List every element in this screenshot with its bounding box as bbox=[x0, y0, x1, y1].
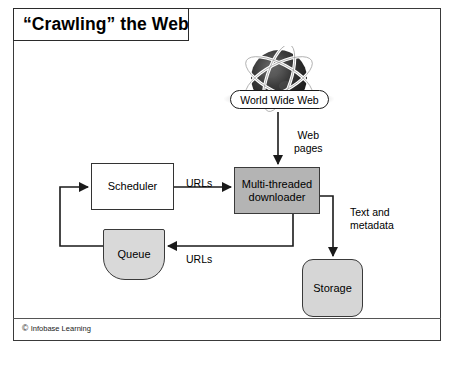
figure-root: “Crawling” the Web bbox=[0, 0, 457, 377]
figure-title-box: “Crawling” the Web bbox=[13, 8, 189, 41]
copyright-icon: © bbox=[22, 324, 28, 333]
node-scheduler: Scheduler bbox=[91, 163, 174, 210]
node-downloader-label: Multi-threaded downloader bbox=[239, 178, 315, 204]
edge-label-urls-to-downloader: URLs bbox=[186, 177, 212, 190]
node-queue: Queue bbox=[103, 229, 165, 280]
edge-label-web-pages: Web pages bbox=[294, 129, 323, 154]
node-storage-label: Storage bbox=[313, 282, 352, 295]
edge-label-text-and-metadata: Text and metadata bbox=[350, 206, 394, 231]
footer-divider bbox=[13, 318, 441, 319]
world-wide-web-label: World Wide Web bbox=[230, 90, 329, 109]
world-wide-web-text: World Wide Web bbox=[240, 94, 318, 106]
node-storage: Storage bbox=[302, 259, 363, 317]
edge-label-urls-to-queue: URLs bbox=[186, 253, 212, 266]
page-title: “Crawling” the Web bbox=[23, 14, 189, 35]
node-scheduler-label: Scheduler bbox=[108, 180, 158, 193]
node-queue-label: Queue bbox=[117, 248, 150, 261]
copyright-text: Infobase Learning bbox=[31, 324, 91, 333]
copyright-credit: © Infobase Learning bbox=[22, 324, 91, 333]
node-multi-threaded-downloader: Multi-threaded downloader bbox=[234, 167, 320, 214]
